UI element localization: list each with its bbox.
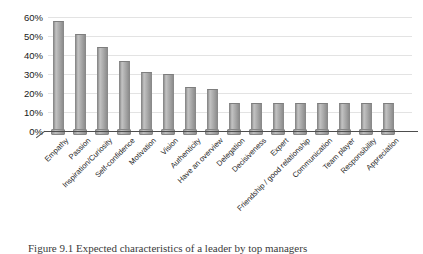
bar-base	[249, 129, 263, 135]
bar-base	[183, 129, 197, 135]
bar	[141, 72, 152, 131]
bar	[229, 103, 240, 131]
bar	[317, 103, 328, 131]
bar-base	[95, 129, 109, 135]
y-axis-tick-label: 60%	[13, 12, 43, 23]
bar-base	[271, 129, 285, 135]
bar	[119, 61, 130, 131]
gridline	[48, 17, 412, 18]
bar-base	[315, 129, 329, 135]
bar	[185, 87, 196, 131]
y-axis-tick-label: 50%	[13, 31, 43, 42]
bar	[295, 103, 306, 131]
bar	[97, 47, 108, 131]
bar-base	[293, 129, 307, 135]
bar-base	[139, 129, 153, 135]
bar-base	[205, 129, 219, 135]
bar	[207, 89, 218, 131]
bar-base	[337, 129, 351, 135]
y-axis-tick-label: 10%	[13, 107, 43, 118]
x-axis-category-label: Empathy	[43, 136, 71, 164]
bar	[273, 103, 284, 131]
bar	[361, 103, 372, 131]
y-axis-tick-label: 20%	[13, 88, 43, 99]
bar	[383, 103, 394, 131]
bar-base	[359, 129, 373, 135]
x-axis-line	[44, 131, 418, 132]
bar	[53, 21, 64, 131]
gridline	[48, 36, 412, 37]
bar-base	[161, 129, 175, 135]
bar-base	[51, 129, 65, 135]
bar	[251, 103, 262, 131]
bar-base	[227, 129, 241, 135]
bar	[163, 74, 174, 131]
y-axis-tick-label: 40%	[13, 50, 43, 61]
bar	[339, 103, 350, 131]
bar	[75, 34, 86, 131]
figure-caption: Figure 9.1 Expected characteristics of a…	[28, 242, 418, 254]
bar-base	[73, 129, 87, 135]
bar-base	[381, 129, 395, 135]
y-axis-tick-label: 30%	[13, 69, 43, 80]
bar-base	[117, 129, 131, 135]
